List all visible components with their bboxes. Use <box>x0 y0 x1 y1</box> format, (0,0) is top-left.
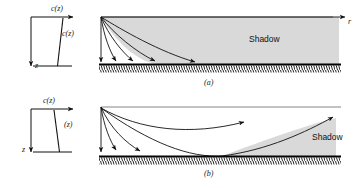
depth-axis-label-a: z <box>35 62 38 70</box>
depth-axis-label-b: z <box>22 146 25 154</box>
sound-speed-curve-a <box>58 18 64 66</box>
profile-top-label-a: c(z) <box>51 5 63 13</box>
diagram-canvas <box>0 0 359 188</box>
ray-field-b <box>99 107 341 165</box>
profile-plot-a <box>31 17 73 66</box>
ray-field-a <box>99 17 345 73</box>
range-axis-label-a: r <box>348 18 351 26</box>
ray-diagram-figure: c(z) c(z) z r Shadow (a) c(z) (z) z Shad… <box>0 0 359 188</box>
shadow-label-b: Shadow <box>312 133 343 142</box>
seabed-hatching-a <box>99 66 341 73</box>
shadow-label-a: Shadow <box>249 35 280 44</box>
refracted-ray-up-b <box>101 108 244 130</box>
panel-b <box>31 107 341 165</box>
panel-caption-a: (a) <box>204 79 213 87</box>
sound-speed-curve-b <box>54 110 60 152</box>
panel-a <box>31 17 345 73</box>
profile-top-label-b: c(z) <box>43 97 55 105</box>
profile-curve-label-b: (z) <box>64 121 72 129</box>
seabed-hatching-b <box>99 158 341 165</box>
shadow-region-a <box>101 17 339 64</box>
profile-curve-label-a: c(z) <box>62 30 74 38</box>
profile-plot-b <box>31 109 73 152</box>
panel-caption-b: (b) <box>204 170 213 178</box>
